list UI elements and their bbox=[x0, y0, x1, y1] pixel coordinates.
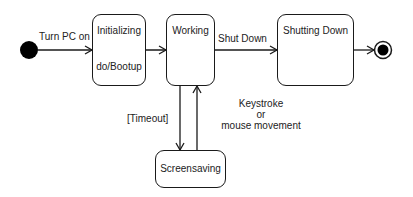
final-node-dot bbox=[378, 45, 389, 56]
state-screensaving: Screensaving bbox=[155, 150, 226, 188]
state-screensaving-name: Screensaving bbox=[156, 163, 225, 174]
label-timeout: [Timeout] bbox=[127, 113, 168, 124]
state-initializing-activity: do/Bootup bbox=[93, 61, 145, 72]
initial-node bbox=[20, 41, 38, 59]
state-shutting-down: Shutting Down bbox=[277, 14, 354, 86]
label-keystroke-line3: mouse movement bbox=[216, 120, 306, 131]
label-turn-pc-on: Turn PC on bbox=[39, 31, 90, 42]
label-keystroke-line2: or bbox=[216, 109, 306, 120]
label-keystroke-line1: Keystroke bbox=[216, 98, 306, 109]
state-working: Working bbox=[166, 14, 215, 86]
state-working-name: Working bbox=[167, 25, 214, 36]
state-initializing-name: Initializing bbox=[93, 25, 145, 36]
label-shut-down: Shut Down bbox=[218, 33, 267, 44]
state-initializing: Initializing do/Bootup bbox=[92, 14, 146, 86]
state-shutting-down-name: Shutting Down bbox=[278, 25, 353, 36]
